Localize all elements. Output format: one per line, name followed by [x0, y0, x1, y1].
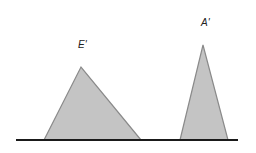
- triangle-e-prime: [44, 67, 141, 140]
- diagram-canvas: E' A': [0, 0, 256, 153]
- label-e-prime: E': [78, 39, 88, 50]
- label-a-prime: A': [200, 17, 211, 28]
- diagram-svg: E' A': [0, 0, 256, 153]
- triangle-a-prime: [180, 45, 228, 140]
